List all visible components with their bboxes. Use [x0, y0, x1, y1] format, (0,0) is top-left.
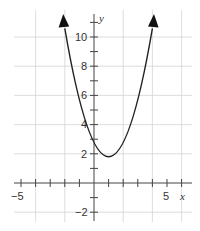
- y-axis-label: y: [98, 12, 104, 24]
- arrowhead-right-icon: [148, 14, 159, 28]
- y-tick-label-2: 2: [81, 148, 87, 160]
- x-tick-label-neg5: −5: [11, 190, 24, 202]
- arrowhead-left-icon: [59, 14, 70, 28]
- y-tick-label-6: 6: [81, 89, 87, 101]
- y-tick-label-8: 8: [81, 60, 87, 72]
- parabola-curve: [65, 28, 153, 156]
- x-axis-label: x: [179, 190, 185, 202]
- x-tick-label-5: 5: [163, 190, 169, 202]
- coordinate-plane: −5 5 x 10 8 6 4 2 −2 y: [0, 0, 200, 231]
- y-tick-label-neg2: −2: [75, 206, 88, 218]
- y-tick-label-10: 10: [75, 31, 87, 43]
